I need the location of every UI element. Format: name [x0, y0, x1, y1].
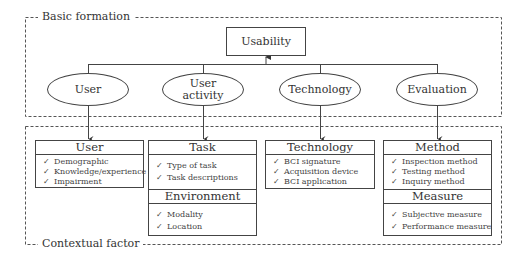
check-icon: ✓ — [391, 177, 402, 187]
environment-box-title: Environment — [149, 189, 256, 204]
check-icon: ✓ — [156, 160, 167, 172]
check-icon: ✓ — [391, 221, 402, 233]
list-item: ✓Subjective measure — [391, 209, 491, 221]
check-icon: ✓ — [156, 221, 167, 233]
list-item: ✓Demographic — [43, 157, 143, 167]
list-item: ✓Inspection method — [391, 157, 491, 167]
list-item: ✓Inquiry method — [391, 177, 491, 187]
check-icon: ✓ — [273, 157, 284, 167]
check-icon: ✓ — [273, 177, 284, 187]
ellipse-technology: Technology — [279, 73, 361, 106]
list-item: ✓Type of task — [156, 160, 256, 172]
technology-item-list: ✓BCI signature ✓Acquisition device ✓BCI … — [266, 155, 374, 190]
method-measure-box: Method ✓Inspection method ✓Testing metho… — [383, 140, 492, 236]
list-item: ✓Impairment — [43, 177, 143, 187]
task-box-title: Task — [149, 141, 256, 155]
list-item: ✓Modality — [156, 209, 256, 221]
technology-box-title: Technology — [266, 141, 374, 155]
check-icon: ✓ — [156, 209, 167, 221]
list-item: ✓Task descriptions — [156, 172, 256, 184]
task-environment-box: Task ✓Type of task ✓Task descriptions En… — [148, 140, 257, 236]
check-icon: ✓ — [43, 177, 54, 187]
method-item-list: ✓Inspection method ✓Testing method ✓Inqu… — [384, 155, 491, 189]
list-item: ✓BCI signature — [273, 157, 374, 167]
list-item: ✓Acquisition device — [273, 167, 374, 177]
list-item: ✓Knowledge/experience — [43, 167, 143, 177]
user-item-list: ✓Demographic ✓Knowledge/experience ✓Impa… — [36, 155, 143, 190]
check-icon: ✓ — [391, 157, 402, 167]
check-icon: ✓ — [43, 157, 54, 167]
check-icon: ✓ — [391, 209, 402, 221]
measure-box-title: Measure — [384, 189, 491, 204]
list-item: ✓BCI application — [273, 177, 374, 187]
check-icon: ✓ — [156, 172, 167, 184]
list-item: ✓Testing method — [391, 167, 491, 177]
usability-node: Usability — [226, 27, 306, 56]
list-item: ✓Location — [156, 221, 256, 233]
method-box-title: Method — [384, 141, 491, 155]
check-icon: ✓ — [391, 167, 402, 177]
ellipse-user: User — [47, 73, 129, 106]
check-icon: ✓ — [43, 167, 54, 177]
check-icon: ✓ — [273, 167, 284, 177]
user-box-title: User — [36, 141, 143, 155]
measure-item-list: ✓Subjective measure ✓Performance measure — [384, 204, 491, 236]
basic-formation-label: Basic formation — [38, 11, 134, 23]
list-item: ✓Performance measure — [391, 221, 491, 233]
contextual-factor-label: Contextual factor — [38, 238, 143, 250]
ellipse-evaluation: Evaluation — [396, 73, 478, 106]
technology-factor-box: Technology ✓BCI signature ✓Acquisition d… — [265, 140, 375, 189]
ellipse-user-activity: User activity — [162, 73, 244, 106]
user-factor-box: User ✓Demographic ✓Knowledge/experience … — [35, 140, 144, 188]
task-item-list: ✓Type of task ✓Task descriptions — [149, 155, 256, 189]
environment-item-list: ✓Modality ✓Location — [149, 204, 256, 236]
